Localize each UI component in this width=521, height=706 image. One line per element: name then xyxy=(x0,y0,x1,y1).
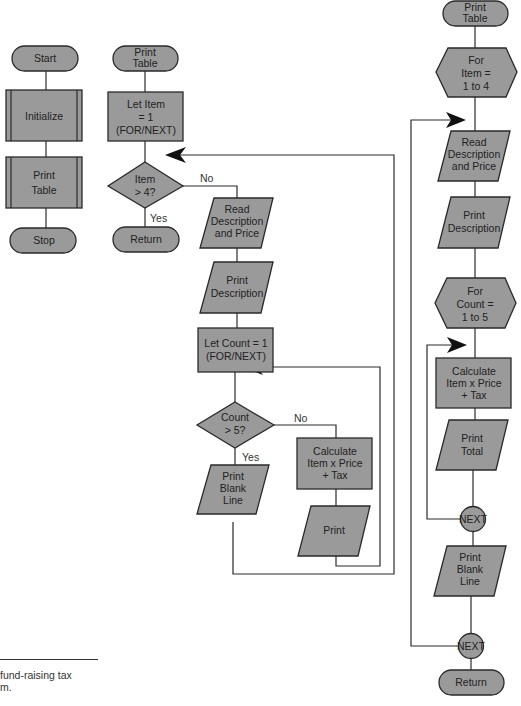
for-count-loop: For Count = 1 to 5 xyxy=(435,278,516,328)
svg-text:For: For xyxy=(467,285,483,297)
yes-edge-label: Yes xyxy=(150,212,167,224)
calculate-process: Calculate Item x Price + Tax xyxy=(297,438,372,489)
svg-text:1 to 5: 1 to 5 xyxy=(462,311,488,323)
print-blank-line-io: Print Blank Line xyxy=(197,465,269,514)
print-io: Print xyxy=(298,506,370,556)
print-description-io: Print Description xyxy=(438,197,510,248)
yes-edge-label: Yes xyxy=(242,451,259,463)
calculate-process: Calculate Item x Price + Tax xyxy=(436,358,511,408)
svg-text:Read: Read xyxy=(224,203,249,215)
svg-text:= 1: = 1 xyxy=(139,111,154,123)
caption-line-2: m. xyxy=(0,681,12,693)
footnote-rule xyxy=(0,659,98,660)
svg-text:(FOR/NEXT): (FOR/NEXT) xyxy=(116,124,176,136)
let-item-process: Let Item = 1 (FOR/NEXT) xyxy=(108,92,183,141)
svg-text:Item x Price: Item x Price xyxy=(307,457,363,469)
svg-text:Blank: Blank xyxy=(220,482,247,494)
next-item-connector: NEXT xyxy=(457,634,486,659)
count-gt-5-decision: Count > 5? xyxy=(197,402,274,448)
svg-text:Description: Description xyxy=(448,222,501,234)
initialize-subprocess: Initialize xyxy=(6,90,82,141)
let-count-process: Let Count = 1 (FOR/NEXT) xyxy=(198,328,273,372)
svg-text:Item =: Item = xyxy=(461,67,490,79)
svg-text:Table: Table xyxy=(132,57,157,69)
no-edge-label: No xyxy=(294,412,308,424)
main-flow: Start Initialize Print Table Stop xyxy=(6,46,82,253)
svg-text:(FOR/NEXT): (FOR/NEXT) xyxy=(206,350,266,362)
start-terminal: Start xyxy=(12,46,78,71)
svg-text:Calculate: Calculate xyxy=(452,365,496,377)
return-terminal: Return xyxy=(439,670,504,695)
svg-text:Initialize: Initialize xyxy=(25,110,63,122)
svg-text:> 4?: > 4? xyxy=(135,186,156,198)
caption-line-1: fund-raising tax xyxy=(0,669,72,681)
svg-text:Print: Print xyxy=(33,169,55,181)
svg-text:NEXT: NEXT xyxy=(459,513,488,525)
svg-text:For: For xyxy=(468,54,484,66)
item-gt-4-decision: Item > 4? xyxy=(108,162,183,208)
svg-text:Total: Total xyxy=(461,445,483,457)
svg-text:Blank: Blank xyxy=(457,563,484,575)
stop-terminal: Stop xyxy=(10,228,76,253)
svg-text:Description: Description xyxy=(448,148,501,160)
read-description-io: Read Description and Price xyxy=(438,131,510,181)
print-table-if-flow: Print Table Let Item = 1 (FOR/NEXT) Item… xyxy=(108,46,394,574)
svg-text:Print: Print xyxy=(459,551,481,563)
svg-text:Table: Table xyxy=(462,12,487,24)
svg-text:Start: Start xyxy=(34,52,56,64)
flowchart-canvas: Start Initialize Print Table Stop xyxy=(0,0,521,706)
svg-text:Item: Item xyxy=(135,173,156,185)
svg-text:NEXT: NEXT xyxy=(457,640,486,652)
svg-text:Print: Print xyxy=(222,470,244,482)
svg-text:and Price: and Price xyxy=(215,227,260,239)
print-description-io: Print Description xyxy=(200,262,273,313)
svg-text:Print: Print xyxy=(226,274,248,286)
svg-text:Description: Description xyxy=(211,215,264,227)
print-table-if-title: Print Table xyxy=(113,46,178,71)
svg-text:Let Item: Let Item xyxy=(127,98,165,110)
no-edge-label: No xyxy=(200,172,214,184)
for-item-loop: For Item = 1 to 4 xyxy=(436,48,517,97)
svg-text:Count: Count xyxy=(221,411,249,423)
print-table-subprocess: Print Table xyxy=(6,157,82,208)
print-blank-line-io: Print Blank Line xyxy=(434,546,506,596)
svg-text:+ Tax: + Tax xyxy=(322,469,348,481)
print-table-for-flow: Print Table For Item = 1 to 4 Read Descr… xyxy=(411,1,517,695)
svg-text:Item x Price: Item x Price xyxy=(446,377,502,389)
svg-text:Print: Print xyxy=(323,524,345,536)
svg-text:Stop: Stop xyxy=(33,234,55,246)
print-total-io: Print Total xyxy=(436,420,508,470)
svg-text:Return: Return xyxy=(130,233,162,245)
read-description-io: Read Description and Price xyxy=(200,198,273,248)
svg-text:+ Tax: + Tax xyxy=(461,389,487,401)
svg-text:Table: Table xyxy=(31,184,56,196)
svg-text:Read: Read xyxy=(461,136,486,148)
svg-text:Print: Print xyxy=(463,209,485,221)
svg-text:Let Count = 1: Let Count = 1 xyxy=(204,337,267,349)
svg-text:Calculate: Calculate xyxy=(313,445,357,457)
svg-text:Count =: Count = xyxy=(456,298,493,310)
svg-text:and Price: and Price xyxy=(452,160,497,172)
svg-text:Return: Return xyxy=(455,676,487,688)
svg-text:Line: Line xyxy=(223,494,243,506)
print-table-for-title: Print Table xyxy=(443,1,508,26)
svg-text:Print: Print xyxy=(461,432,483,444)
svg-text:Description: Description xyxy=(211,287,264,299)
return-terminal: Return xyxy=(113,227,179,252)
svg-text:Line: Line xyxy=(460,575,480,587)
svg-text:> 5?: > 5? xyxy=(225,424,246,436)
next-count-connector: NEXT xyxy=(459,507,488,532)
svg-text:1 to 4: 1 to 4 xyxy=(463,80,489,92)
